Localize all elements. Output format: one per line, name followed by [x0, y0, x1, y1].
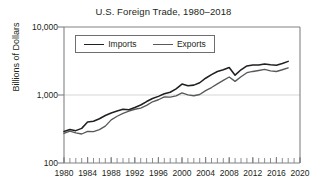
y-tick-label-1000: 1,000: [14, 90, 58, 100]
y-axis-ticks: 10,000 1,000 100: [10, 0, 58, 196]
chart-container: U.S. Foreign Trade, 1980–2018 Billions o…: [0, 0, 327, 196]
legend-line-icon-imports: [84, 44, 104, 45]
legend-label-exports: Exports: [177, 39, 206, 49]
y-axis-major-ticks: [58, 27, 64, 163]
legend-entry-imports: Imports: [84, 39, 136, 49]
y-tick-label-10000: 10,000: [14, 22, 58, 32]
legend-label-imports: Imports: [108, 39, 136, 49]
legend-entry-exports: Exports: [153, 39, 206, 49]
legend-line-icon-exports: [153, 44, 173, 45]
series-line-exports: [64, 68, 288, 134]
y-tick-label-100: 100: [14, 158, 58, 168]
chart-legend: Imports Exports: [75, 35, 215, 53]
x-tick-label-2020: 2020: [280, 168, 320, 178]
